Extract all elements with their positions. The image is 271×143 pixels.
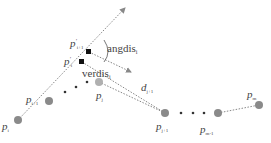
diagram-lines [0,0,271,143]
label-p-i-plus-1: pi+1 [26,94,38,106]
label-angdis: angdisi [107,43,137,55]
point-p-m-minus-1 [214,109,222,117]
label-p-j: pj [96,90,103,102]
segment-j [99,82,165,113]
label-p-m-minus-1: pm-1 [200,124,214,136]
label-d: dj+1 [141,82,153,94]
label-p-j-plus-1: pj+1 [156,121,168,133]
label-p-m: pm [247,89,256,101]
label-verdis: verdisi [82,68,111,80]
point-p-i-prime [79,59,84,64]
point-p-j-plus-1 [161,109,169,117]
label-p-i1-prime: p'i+1 [70,38,84,50]
label-p-i: pi [2,121,9,133]
label-p-i-prime: p'i [64,56,72,68]
point-p-i [14,116,22,124]
point-p-i-plus-1 [45,97,53,105]
trajectory-diagram: pi pi+1 pj pj+1 pm-1 pm p'i p'i+1 angdis… [0,0,271,143]
point-p-m [255,101,263,109]
point-p-i1-prime [86,49,91,54]
segment-m [218,105,259,113]
